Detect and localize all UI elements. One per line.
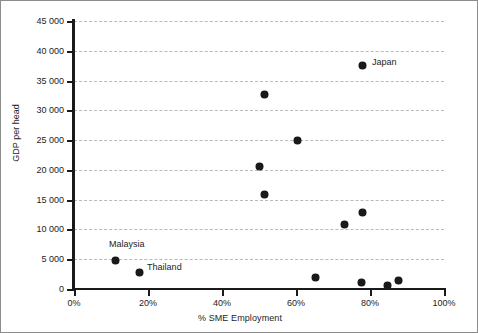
data-point-label: Malaysia [109,239,145,249]
gridline [74,21,444,22]
y-axis-tick [67,289,73,291]
y-axis-tick-labels: 05 00010 00015 00020 00025 00030 00035 0… [21,1,64,333]
data-point-label: Thailand [147,262,182,272]
gridline [74,259,444,260]
data-point [261,91,268,98]
x-axis-tick-label: 0% [54,298,94,308]
x-axis-tick [148,290,150,296]
gridline [74,170,444,171]
data-point [256,163,263,170]
y-axis-tick-label: 15 000 [36,195,64,205]
y-axis-tick [67,170,73,172]
x-axis-tick-label: 20% [128,298,168,308]
y-axis-tick-label: 5 000 [41,254,64,264]
x-axis-tick-label: 60% [276,298,316,308]
data-point [294,137,301,144]
y-axis-tick [67,81,73,83]
y-axis-line [72,19,75,291]
data-point [395,277,402,284]
y-axis-tick-label: 30 000 [36,105,64,115]
y-axis-tick [67,259,73,261]
y-axis-tick [67,110,73,112]
data-point [341,221,348,228]
y-axis-tick [67,229,73,231]
y-axis-tick [67,21,73,23]
plot-area: MalaysiaThailandJapan [74,21,444,289]
data-point [112,257,119,264]
data-point [261,191,268,198]
y-axis-tick-label: 45 000 [36,16,64,26]
data-point [359,62,366,69]
gridline [74,81,444,82]
x-axis-tick-label: 80% [350,298,390,308]
data-point [136,269,143,276]
data-point [358,279,365,286]
x-axis-title: % SME Employment [1,313,478,323]
y-axis-tick-label: 25 000 [36,135,64,145]
data-point [312,274,319,281]
y-axis-tick [67,140,73,142]
gridline [74,110,444,111]
data-point [359,209,366,216]
gridline [74,140,444,141]
y-axis-tick-label: 0 [59,284,64,294]
gridline [74,200,444,201]
x-axis-tick [370,290,372,296]
y-axis-tick-label: 40 000 [36,46,64,56]
y-axis-title: GDP per head [11,73,21,193]
x-axis-tick-label: 40% [202,298,242,308]
x-axis-tick [74,290,76,296]
y-axis-tick [67,51,73,53]
gridline [74,51,444,52]
x-axis-tick [222,290,224,296]
scatter-chart-figure: MalaysiaThailandJapan 05 00010 00015 000… [0,0,478,333]
x-axis-tick [444,290,446,296]
y-axis-tick [67,200,73,202]
y-axis-tick-label: 20 000 [36,165,64,175]
x-axis-tick-label: 100% [424,298,464,308]
x-axis-line [72,288,446,290]
y-axis-tick-label: 10 000 [36,224,64,234]
y-axis-tick-label: 35 000 [36,76,64,86]
data-point-label: Japan [372,57,397,67]
x-axis-tick [296,290,298,296]
gridline [74,229,444,230]
